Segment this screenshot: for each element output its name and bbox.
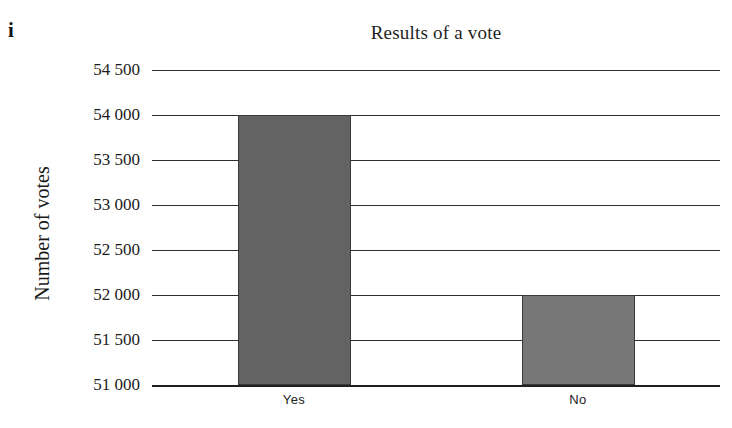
y-tick-label: 54 000 bbox=[93, 105, 140, 125]
x-tick-label-yes: Yes bbox=[283, 392, 305, 407]
y-tick-label: 54 500 bbox=[93, 60, 140, 80]
x-tick-label-no: No bbox=[569, 392, 586, 407]
plot-area: 51 00051 50052 00052 50053 00053 50054 0… bbox=[152, 70, 720, 385]
axis-baseline bbox=[152, 385, 720, 387]
y-axis-title: Number of votes bbox=[31, 119, 54, 349]
y-tick-label: 53 000 bbox=[93, 195, 140, 215]
gridline bbox=[152, 70, 720, 71]
y-tick-label: 51 000 bbox=[93, 375, 140, 395]
item-marker: i bbox=[8, 20, 14, 41]
chart-title: Results of a vote bbox=[152, 22, 720, 44]
y-tick-label: 52 000 bbox=[93, 285, 140, 305]
y-tick-label: 52 500 bbox=[93, 240, 140, 260]
bar-no bbox=[522, 295, 635, 385]
bar-yes bbox=[238, 115, 351, 385]
chart-page: i Results of a vote Number of votes 51 0… bbox=[0, 0, 732, 428]
y-tick-label: 51 500 bbox=[93, 330, 140, 350]
y-tick-label: 53 500 bbox=[93, 150, 140, 170]
